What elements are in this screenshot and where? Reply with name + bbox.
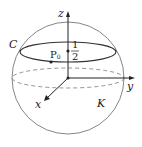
center-c-point (66, 49, 69, 52)
sphere-k-label: K (96, 97, 106, 110)
origin-point (67, 77, 70, 80)
x-label: x (35, 98, 42, 111)
sphere-diagram: z y x C K P0 1 2 (0, 0, 142, 147)
p0-point (49, 60, 52, 63)
z-arrow-icon (66, 11, 70, 17)
circle-c-label: C (9, 38, 18, 51)
fraction-denominator: 2 (72, 51, 78, 62)
x-axis (47, 78, 68, 98)
z-label: z (57, 7, 64, 20)
y-label: y (126, 80, 134, 93)
fraction-numerator: 1 (72, 39, 78, 50)
p0-label: P0 (50, 49, 61, 60)
p0-subscript: 0 (57, 53, 61, 60)
